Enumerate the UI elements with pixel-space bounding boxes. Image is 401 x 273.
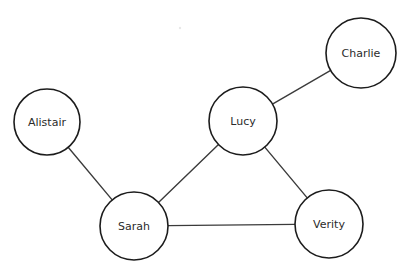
edge-layer	[68, 70, 331, 225]
node-verity[interactable]: Verity	[295, 190, 363, 258]
node-sarah[interactable]: Sarah	[100, 192, 168, 260]
node-alistair[interactable]: Alistair	[14, 89, 80, 155]
node-charlie[interactable]: Charlie	[326, 18, 396, 88]
edge-lucy-verity	[265, 147, 307, 198]
node-layer: AlistairCharlieLucySarahVerity	[14, 18, 396, 260]
node-label-verity: Verity	[313, 218, 345, 231]
edge-lucy-sarah	[158, 145, 218, 203]
diagram-canvas: AlistairCharlieLucySarahVerity	[0, 0, 401, 273]
network-graph: AlistairCharlieLucySarahVerity	[0, 0, 401, 273]
stray-speck	[179, 27, 181, 29]
edge-lucy-charlie	[272, 70, 330, 104]
node-lucy[interactable]: Lucy	[209, 87, 277, 155]
edge-sarah-verity	[168, 224, 295, 225]
edge-alistair-sarah	[68, 147, 112, 200]
node-label-alistair: Alistair	[28, 116, 66, 129]
node-label-sarah: Sarah	[118, 220, 150, 233]
node-label-charlie: Charlie	[342, 47, 381, 60]
node-label-lucy: Lucy	[230, 115, 256, 128]
